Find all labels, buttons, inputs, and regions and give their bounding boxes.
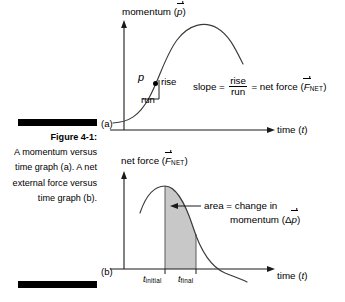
delta-p-vector-symbol: p <box>292 213 297 227</box>
net-subscript: NET <box>310 85 323 92</box>
run-label: run <box>141 94 155 105</box>
figure-caption: Figure 4-1: A momentum versus time graph… <box>2 130 97 206</box>
figure-page: Figure 4-1: A momentum versus time graph… <box>0 0 345 302</box>
F-vector-symbol: F <box>165 155 171 166</box>
caption-rule-top <box>18 119 97 126</box>
x-axis-arrowhead <box>267 266 275 272</box>
y-axis-arrowhead <box>121 20 127 28</box>
chart-net-force-vs-time: net force (FNET) time (t) area = change … <box>105 155 345 297</box>
figure-caption-text: A momentum versus time graph (a). A net … <box>13 147 97 203</box>
slope-word: slope <box>193 81 216 92</box>
net-force-term: net force (FNET) <box>260 81 327 92</box>
figure-number: Figure 4-1: <box>2 130 97 145</box>
point-p-label: p <box>138 71 144 83</box>
panel-a-y-axis-label: momentum (p) <box>122 6 186 17</box>
area-annotation-line2: momentum (Δp) <box>204 213 300 227</box>
area-annotation-line1: area = change in <box>204 200 277 211</box>
equals-sign-1: = <box>219 81 225 92</box>
area-annotation: area = change in momentum (Δp) <box>204 199 300 226</box>
caption-rule-bottom <box>18 281 97 288</box>
x-axis-arrowhead <box>267 127 275 133</box>
F-vector-symbol: F <box>304 81 310 92</box>
fraction-numerator: rise <box>228 76 248 86</box>
net-subscript: NET <box>171 159 184 166</box>
p-vector-symbol: p <box>177 6 182 17</box>
tangent-point-marker <box>153 81 158 86</box>
equals-sign-2: = <box>251 81 257 92</box>
rise-over-run-fraction: rise run <box>228 76 248 97</box>
rise-label: rise <box>161 76 176 87</box>
slope-equation: slope = rise run = net force (FNET) <box>193 76 326 97</box>
t-initial-label: tinitial <box>143 274 162 284</box>
y-axis-arrowhead <box>121 171 127 179</box>
panel-b-x-axis-label: time (t) <box>277 270 308 281</box>
panel-b-y-axis-label: net force (FNET) <box>121 155 188 166</box>
panel-b-plot <box>105 155 345 297</box>
panel-a-x-axis-label: time (t) <box>277 124 308 135</box>
t-final-label: tfinal <box>178 274 193 284</box>
momentum-curve <box>113 24 243 123</box>
chart-momentum-vs-time: momentum (p) time (t) p rise run slope =… <box>105 6 345 140</box>
fraction-denominator: run <box>229 86 247 97</box>
